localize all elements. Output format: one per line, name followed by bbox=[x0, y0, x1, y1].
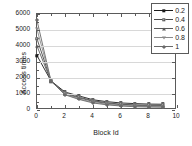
y-axis-tick-label: 0 bbox=[0, 106, 30, 113]
x-axis-tick-top bbox=[65, 14, 66, 17]
x-axis-tick-label: 6 bbox=[110, 113, 130, 120]
legend-label: 1 bbox=[173, 43, 179, 50]
gridline bbox=[37, 78, 175, 79]
y-axis-minor-tick bbox=[37, 70, 39, 71]
y-axis-tick bbox=[37, 110, 40, 111]
x-axis-minor-tick bbox=[51, 106, 52, 108]
x-axis-tick-top bbox=[121, 14, 122, 17]
y-axis-tick bbox=[37, 94, 40, 95]
y-axis-tick-label: 4000 bbox=[0, 42, 30, 49]
gridline bbox=[37, 62, 175, 63]
legend-diamond-marker bbox=[162, 44, 166, 48]
x-axis-minor-tick bbox=[79, 106, 80, 108]
legend-triangle-down-marker bbox=[162, 36, 166, 39]
filled-square-marker bbox=[35, 54, 38, 57]
x-axis-tick bbox=[93, 105, 94, 108]
y-axis-minor-tick bbox=[37, 102, 39, 103]
y-axis-tick-right bbox=[172, 110, 175, 111]
legend-item-0-4[interactable]: 0.4 bbox=[154, 15, 185, 24]
x-axis-minor-tick-top bbox=[135, 14, 136, 16]
y-axis-tick bbox=[37, 62, 40, 63]
x-axis-tick bbox=[177, 105, 178, 108]
y-axis-tick-right bbox=[172, 78, 175, 79]
y-axis-tick-label: 6000 bbox=[0, 10, 30, 17]
legend-label: 0.4 bbox=[173, 16, 185, 23]
legend-item-0-6[interactable]: 0.6 bbox=[154, 24, 185, 33]
x-axis-tick-top bbox=[93, 14, 94, 17]
x-axis-tick-top bbox=[149, 14, 150, 17]
x-axis-minor-tick-top bbox=[51, 14, 52, 16]
legend-triangle-up-marker bbox=[162, 27, 166, 30]
y-axis-minor-tick bbox=[37, 22, 39, 23]
legend-item-0-2[interactable]: 0.2 bbox=[154, 6, 185, 15]
legend-sample bbox=[154, 42, 173, 51]
legend-label: 0.6 bbox=[173, 25, 185, 32]
open-square-marker bbox=[35, 37, 38, 40]
legend-label: 0.2 bbox=[173, 7, 185, 14]
legend-item-1[interactable]: 1 bbox=[154, 42, 185, 51]
legend-label: 0.8 bbox=[173, 34, 185, 41]
x-axis-tick-label: 8 bbox=[138, 113, 158, 120]
gridline bbox=[37, 94, 175, 95]
legend-filled-square-marker bbox=[162, 9, 165, 12]
x-axis-tick bbox=[37, 105, 38, 108]
legend-sample bbox=[154, 6, 173, 15]
y-axis-minor-tick bbox=[37, 86, 39, 87]
y-axis-tick bbox=[37, 78, 40, 79]
y-axis-tick-label: 3000 bbox=[0, 58, 30, 65]
legend-open-square-marker bbox=[162, 18, 165, 21]
y-axis-tick-right bbox=[172, 62, 175, 63]
triangle-up-marker bbox=[35, 45, 39, 48]
x-axis-title: Block Id bbox=[36, 129, 176, 136]
x-axis-tick-label: 10 bbox=[166, 113, 186, 120]
legend[interactable]: 0.20.40.60.81 bbox=[151, 3, 189, 54]
legend-item-0-8[interactable]: 0.8 bbox=[154, 33, 185, 42]
y-axis-tick-label: 2000 bbox=[0, 74, 30, 81]
x-axis-tick bbox=[65, 105, 66, 108]
legend-sample bbox=[154, 33, 173, 42]
y-axis-tick-label: 1000 bbox=[0, 90, 30, 97]
x-axis-tick-top bbox=[37, 14, 38, 17]
y-axis-tick-label: 5000 bbox=[0, 26, 30, 33]
legend-sample bbox=[154, 15, 173, 24]
x-axis-minor-tick-top bbox=[79, 14, 80, 16]
x-axis-tick-label: 4 bbox=[82, 113, 102, 120]
x-axis-minor-tick-top bbox=[107, 14, 108, 16]
y-axis-tick-right bbox=[172, 94, 175, 95]
x-axis-tick-label: 2 bbox=[54, 113, 74, 120]
x-axis-tick-label: 0 bbox=[26, 113, 46, 120]
legend-sample bbox=[154, 24, 173, 33]
triangle-down-marker bbox=[35, 28, 39, 31]
chart-figure: Access times Block Id 010002000300040005… bbox=[0, 0, 192, 146]
